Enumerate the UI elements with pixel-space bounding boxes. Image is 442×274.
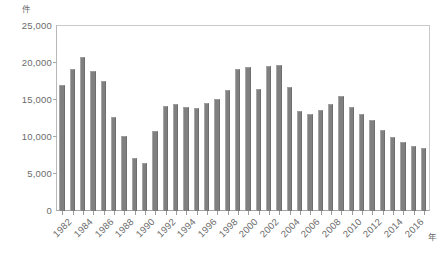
bar bbox=[369, 120, 374, 211]
x-axis-tick-label: 2012 bbox=[361, 216, 384, 239]
x-axis-tick bbox=[93, 211, 94, 215]
x-axis-tick bbox=[176, 211, 177, 215]
x-axis-tick bbox=[186, 211, 187, 215]
bar-slot bbox=[408, 26, 418, 211]
bar-slot bbox=[129, 26, 139, 211]
bar-slot bbox=[346, 26, 356, 211]
bar-slot bbox=[57, 26, 67, 211]
bar-slot bbox=[109, 26, 119, 211]
bar bbox=[359, 114, 364, 211]
x-axis-tick-label: 2004 bbox=[278, 216, 301, 239]
x-axis-unit-label: 年 bbox=[428, 230, 437, 242]
x-axis-tick bbox=[104, 211, 105, 215]
bar-slot bbox=[212, 26, 222, 211]
bar-slot bbox=[367, 26, 377, 211]
x-axis-tick bbox=[217, 211, 218, 215]
bar bbox=[90, 71, 95, 211]
bar-slot bbox=[377, 26, 387, 211]
x-axis-tick bbox=[352, 211, 353, 215]
bar-slot bbox=[88, 26, 98, 211]
bar-slot bbox=[336, 26, 346, 211]
x-axis-tick-labels: 1982198419861988199019921994199619982000… bbox=[57, 216, 437, 274]
bar-chart: 件 05,00010,00015,00020,00025,000 1982198… bbox=[0, 0, 442, 274]
x-axis-tick-label: 1994 bbox=[175, 216, 198, 239]
bar-slot bbox=[305, 26, 315, 211]
x-axis-tick-label: 1982 bbox=[51, 216, 74, 239]
bar-slot bbox=[150, 26, 160, 211]
x-axis-tick bbox=[83, 211, 84, 215]
bar-slot bbox=[222, 26, 232, 211]
bar-slot bbox=[202, 26, 212, 211]
x-axis-tick bbox=[362, 211, 363, 215]
bar bbox=[256, 89, 261, 211]
x-axis-tick bbox=[331, 211, 332, 215]
bar bbox=[214, 99, 219, 211]
bar bbox=[400, 142, 405, 211]
x-axis-tick-label: 2002 bbox=[257, 216, 280, 239]
x-axis-tick bbox=[414, 211, 415, 215]
y-axis-tick-label: 5,000 bbox=[27, 168, 52, 179]
bar bbox=[121, 136, 126, 211]
x-axis-tick bbox=[300, 211, 301, 215]
x-axis-tick bbox=[372, 211, 373, 215]
bar bbox=[266, 66, 271, 211]
bar bbox=[204, 103, 209, 211]
bar-slot bbox=[181, 26, 191, 211]
bar bbox=[390, 137, 395, 211]
x-axis-tick-label: 1996 bbox=[195, 216, 218, 239]
bar-slot bbox=[419, 26, 429, 211]
y-axis-tick-label: 10,000 bbox=[22, 131, 52, 142]
x-axis-tick bbox=[238, 211, 239, 215]
x-axis-tick bbox=[197, 211, 198, 215]
y-axis-tick bbox=[53, 99, 57, 100]
bar-slot bbox=[78, 26, 88, 211]
y-axis-tick-labels: 05,00010,00015,00020,00025,000 bbox=[0, 25, 52, 211]
bar bbox=[276, 65, 281, 211]
x-axis-tick bbox=[62, 211, 63, 215]
bar-slot bbox=[67, 26, 77, 211]
bar bbox=[318, 110, 323, 211]
x-axis-tick bbox=[259, 211, 260, 215]
x-axis-tick bbox=[321, 211, 322, 215]
y-axis-tick-label: 0 bbox=[47, 205, 52, 216]
bar bbox=[287, 87, 292, 211]
bars-layer bbox=[57, 26, 429, 211]
x-axis-tick-label: 2008 bbox=[319, 216, 342, 239]
x-axis-tick bbox=[393, 211, 394, 215]
bar bbox=[183, 107, 188, 211]
bar bbox=[70, 69, 75, 211]
x-axis-tick-label: 1992 bbox=[154, 216, 177, 239]
x-axis-tick bbox=[383, 211, 384, 215]
x-axis-tick bbox=[228, 211, 229, 215]
bar-slot bbox=[264, 26, 274, 211]
x-axis-tick bbox=[424, 211, 425, 215]
x-axis-tick bbox=[135, 211, 136, 215]
x-axis-tick bbox=[155, 211, 156, 215]
bar bbox=[349, 107, 354, 211]
x-axis-tick bbox=[269, 211, 270, 215]
y-axis-tick-label: 15,000 bbox=[22, 94, 52, 105]
bar-slot bbox=[119, 26, 129, 211]
bar bbox=[307, 114, 312, 211]
bar bbox=[132, 158, 137, 211]
x-axis-tick bbox=[310, 211, 311, 215]
x-axis-tick bbox=[207, 211, 208, 215]
bar-slot bbox=[357, 26, 367, 211]
bar bbox=[380, 130, 385, 211]
bar bbox=[235, 69, 240, 211]
x-axis-tick-label: 1998 bbox=[216, 216, 239, 239]
x-axis-tick bbox=[279, 211, 280, 215]
x-axis-tick-label: 1988 bbox=[113, 216, 136, 239]
x-axis-tick-label: 2010 bbox=[340, 216, 363, 239]
x-axis-tick-label: 1986 bbox=[92, 216, 115, 239]
bar bbox=[338, 96, 343, 211]
bar-slot bbox=[140, 26, 150, 211]
x-axis-tick bbox=[403, 211, 404, 215]
bar-slot bbox=[284, 26, 294, 211]
x-axis-tick bbox=[166, 211, 167, 215]
bar bbox=[194, 108, 199, 211]
x-axis-tick bbox=[145, 211, 146, 215]
bar bbox=[411, 146, 416, 211]
x-axis-tick-label: 2014 bbox=[381, 216, 404, 239]
bar bbox=[59, 85, 64, 211]
